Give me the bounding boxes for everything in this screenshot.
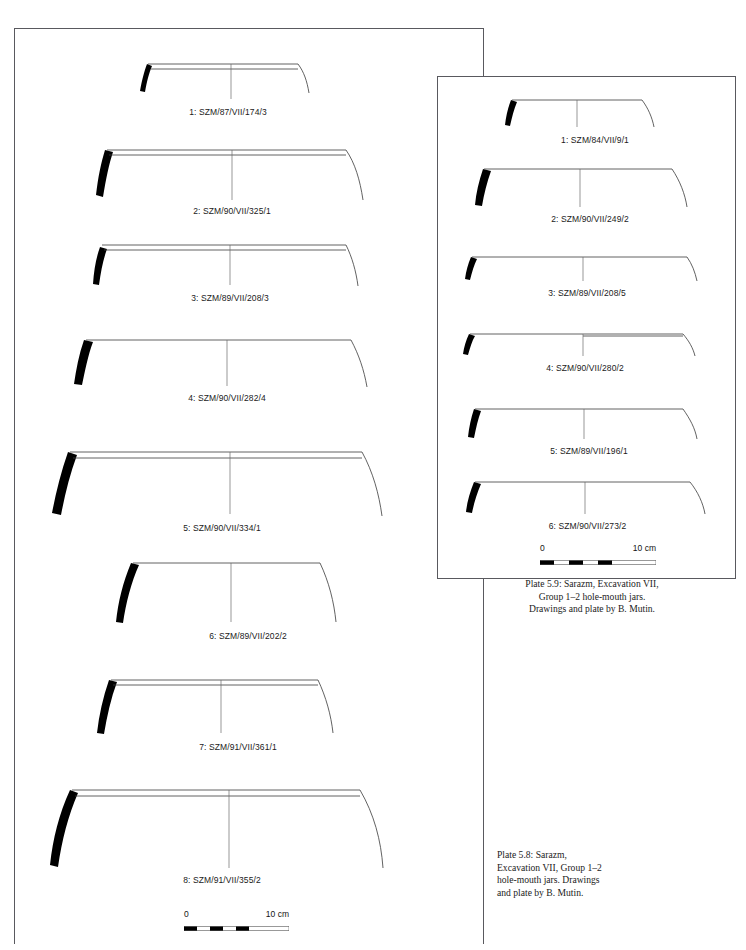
rim-fill xyxy=(505,100,517,126)
vessel-drawing-58-2: 2: SZM/90/VII/325/1 xyxy=(82,145,382,216)
vessel-drawing-59-6: 6: SZM/90/VII/273/2 xyxy=(455,478,720,531)
vessel-label: 1: SZM/87/VII/174/3 xyxy=(118,107,338,117)
vessel-outer-profile xyxy=(70,452,382,516)
vessel-label: 2: SZM/90/VII/249/2 xyxy=(465,214,715,224)
vessel-outer-profile xyxy=(475,482,705,514)
caption-line-2: Group 1–2 hole-mouth jars. xyxy=(484,591,700,604)
scale-bar-graphic xyxy=(540,559,656,568)
vessel-outer-profile xyxy=(475,409,697,439)
rim-fill xyxy=(96,150,113,197)
vessel-drawing-59-2: 2: SZM/90/VII/249/2 xyxy=(465,165,715,224)
vessel-outer-profile xyxy=(107,150,363,200)
vessel-outer-profile xyxy=(148,64,309,93)
vessel-drawing-58-7: 7: SZM/91/VII/361/1 xyxy=(88,675,388,752)
scale-max-label: 10 cm xyxy=(633,543,656,553)
vessel-label: 6: SZM/90/VII/273/2 xyxy=(455,521,720,531)
vessel-label: 7: SZM/91/VII/361/1 xyxy=(88,742,388,752)
rim-fill xyxy=(465,257,477,280)
rim-fill xyxy=(50,790,78,867)
rim-fill xyxy=(140,64,152,92)
vessel-profile-svg xyxy=(455,330,715,362)
vessel-profile-svg xyxy=(457,253,717,287)
plate-page: 1: SZM/87/VII/174/3 2: SZM/90/VII/325/1 … xyxy=(0,0,746,950)
plate-58-caption: Plate 5.8: Sarazm, Excavation VII, Group… xyxy=(497,849,687,899)
vessel-drawing-59-4: 4: SZM/90/VII/280/2 xyxy=(455,330,715,373)
vessel-label: 5: SZM/89/VII/196/1 xyxy=(459,446,719,456)
vessel-outer-profile xyxy=(111,680,333,733)
vessel-outer-profile xyxy=(512,100,654,127)
vessel-label: 5: SZM/90/VII/334/1 xyxy=(42,523,402,533)
vessel-outer-profile xyxy=(484,169,687,207)
scale-zero-label: 0 xyxy=(184,909,189,919)
vessel-drawing-58-5: 5: SZM/90/VII/334/1 xyxy=(42,442,402,533)
vessel-profile-svg xyxy=(108,558,388,630)
scale-bar-graphic xyxy=(184,925,289,934)
vessel-profile-svg xyxy=(62,330,392,392)
rim-fill xyxy=(475,169,491,206)
vessel-drawing-59-5: 5: SZM/89/VII/196/1 xyxy=(459,405,719,456)
vessel-profile-svg xyxy=(465,165,715,213)
vessel-drawing-59-3: 3: SZM/89/VII/208/5 xyxy=(457,253,717,298)
caption-line-4: and plate by B. Mutin. xyxy=(497,887,687,900)
rim-fill xyxy=(468,409,481,438)
vessel-drawing-58-8: 8: SZM/91/VII/355/2 xyxy=(42,782,402,885)
caption-line-1: Plate 5.9: Sarazm, Excavation VII, xyxy=(484,578,700,591)
vessel-label: 6: SZM/89/VII/202/2 xyxy=(108,631,388,641)
vessel-outer-profile xyxy=(72,790,383,868)
vessel-label: 1: SZM/84/VII/9/1 xyxy=(495,135,695,145)
vessel-profile-svg xyxy=(80,240,380,292)
vessel-profile-svg xyxy=(82,145,382,205)
vessel-drawing-58-3: 3: SZM/89/VII/208/3 xyxy=(80,240,380,303)
rim-fill xyxy=(466,482,481,513)
rim-fill xyxy=(116,563,139,623)
vessel-profile-svg xyxy=(88,675,388,741)
vessel-drawing-59-1: 1: SZM/84/VII/9/1 xyxy=(495,96,695,145)
caption-line-2: Excavation VII, Group 1–2 xyxy=(497,862,687,875)
vessel-drawing-58-1: 1: SZM/87/VII/174/3 xyxy=(118,58,338,117)
vessel-label: 2: SZM/90/VII/325/1 xyxy=(82,206,382,216)
rim-fill xyxy=(97,680,117,734)
vessel-profile-svg xyxy=(42,782,402,874)
vessel-profile-svg xyxy=(455,478,720,520)
vessel-profile-svg xyxy=(459,405,719,445)
vessel-profile-svg xyxy=(118,58,338,106)
scale-max-label: 10 cm xyxy=(266,909,289,919)
rim-fill xyxy=(74,340,93,385)
caption-line-3: Drawings and plate by B. Mutin. xyxy=(484,603,700,616)
scale-bar-plate-59: 0 10 cm xyxy=(540,543,656,572)
vessel-profile-svg xyxy=(42,442,402,522)
vessel-outer-profile xyxy=(86,340,367,387)
vessel-outer-profile xyxy=(470,334,695,356)
vessel-label: 4: SZM/90/VII/282/4 xyxy=(62,393,392,403)
caption-line-1: Plate 5.8: Sarazm, xyxy=(497,849,687,862)
rim-fill xyxy=(463,334,475,355)
rim-fill xyxy=(93,247,107,285)
scale-zero-label: 0 xyxy=(540,543,545,553)
rim-fill xyxy=(52,452,77,515)
vessel-outer-profile xyxy=(472,257,697,281)
vessel-profile-svg xyxy=(495,96,695,134)
vessel-label: 3: SZM/89/VII/208/5 xyxy=(457,288,717,298)
scale-bar-plate-58: 0 10 cm xyxy=(184,909,289,938)
scale-bar-labels: 0 10 cm xyxy=(540,543,656,554)
vessel-outer-profile xyxy=(133,563,336,622)
vessel-drawing-58-4: 4: SZM/90/VII/282/4 xyxy=(62,330,392,403)
vessel-label: 3: SZM/89/VII/208/3 xyxy=(80,293,380,303)
vessel-label: 4: SZM/90/VII/280/2 xyxy=(455,363,715,373)
vessel-drawing-58-6: 6: SZM/89/VII/202/2 xyxy=(108,558,388,641)
caption-line-3: hole-mouth jars. Drawings xyxy=(497,874,687,887)
vessel-label: 8: SZM/91/VII/355/2 xyxy=(42,875,402,885)
scale-bar-labels: 0 10 cm xyxy=(184,909,289,920)
plate-59-caption: Plate 5.9: Sarazm, Excavation VII, Group… xyxy=(484,578,700,616)
